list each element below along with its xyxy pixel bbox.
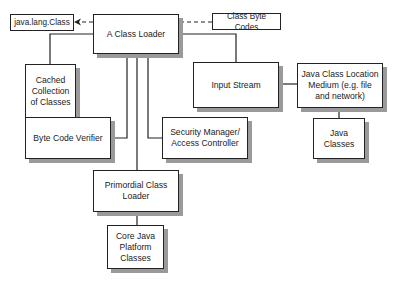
node-core-classes: Core Java Platform Classes — [107, 225, 164, 269]
edge-loader-security — [148, 53, 162, 138]
arrowhead-icon — [74, 19, 81, 26]
node-primordial-loader: Primordial Class Loader — [93, 170, 179, 212]
node-class-byte-codes: Class Byte Codes — [212, 13, 281, 30]
edge-loader-verifier — [110, 53, 127, 138]
node-input-stream: Input Stream — [193, 62, 279, 108]
edge-loader-cached — [50, 34, 93, 64]
node-java-lang-class: java.lang.Class — [10, 14, 74, 31]
edge-loader-inputstream — [178, 34, 236, 62]
node-class-loader: A Class Loader — [93, 14, 179, 54]
node-cached-collection: Cached Collection of Classes — [25, 64, 76, 118]
node-location-medium: Java Class Location Medium (e.g. file an… — [297, 63, 383, 108]
node-security-manager: Security Manager/ Access Controller — [162, 117, 248, 159]
node-java-classes: Java Classes — [313, 118, 365, 159]
node-byte-code-verifier: Byte Code Verifier — [25, 117, 111, 159]
